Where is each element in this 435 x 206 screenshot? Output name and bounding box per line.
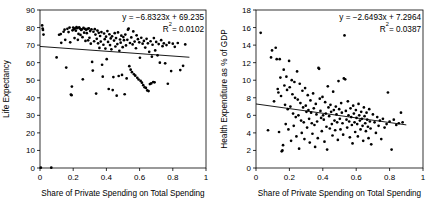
scatter-point: [131, 71, 134, 74]
scatter-point: [135, 47, 138, 50]
scatter-point: [340, 111, 343, 114]
scatter-point: [50, 166, 53, 169]
scatter-point: [42, 29, 45, 32]
scatter-points-group: [259, 31, 404, 152]
y-tick-label: 0: [31, 164, 36, 173]
scatter-point: [342, 133, 345, 136]
scatter-point: [84, 40, 87, 43]
scatter-point: [318, 97, 321, 100]
y-tick-label: 6: [247, 111, 252, 120]
scatter-point: [301, 89, 304, 92]
scatter-point: [290, 79, 293, 82]
scatter-point: [113, 32, 116, 35]
scatter-point: [119, 38, 122, 41]
scatter-point: [98, 47, 101, 50]
scatter-point: [141, 81, 144, 84]
scatter-point: [390, 148, 393, 151]
x-axis-label: Share of Private Spending on Total Spend…: [258, 189, 422, 198]
scatter-point: [309, 99, 312, 102]
scatter-point: [105, 35, 108, 38]
scatter-point: [387, 91, 390, 94]
scatter-point: [124, 33, 127, 36]
chart-panel-health-expenditure: 02468101214161800.20.40.60.81Share of Pr…: [218, 0, 435, 206]
x-tick-label: 0.6: [351, 173, 363, 182]
scatter-point: [383, 126, 386, 129]
scatter-point: [311, 132, 314, 135]
scatter-point: [81, 78, 84, 81]
scatter-point: [115, 37, 118, 40]
scatter-point: [341, 122, 344, 125]
scatter-point: [382, 117, 385, 120]
trendline: [40, 46, 189, 57]
scatter-point: [316, 137, 319, 140]
x-tick-label: 0.8: [167, 173, 179, 182]
scatter-point: [91, 69, 94, 72]
scatter-point: [121, 46, 124, 49]
scatter-point: [296, 98, 299, 101]
scatter-point: [332, 109, 335, 112]
scatter-point: [179, 69, 182, 72]
scatter-point: [153, 81, 156, 84]
scatter-point: [77, 38, 80, 41]
scatter-point: [308, 141, 311, 144]
scatter-point: [133, 40, 136, 43]
scatter-point: [73, 37, 76, 40]
scatter-point: [300, 132, 303, 135]
scatter-point: [159, 61, 162, 64]
scatter-point: [322, 118, 325, 121]
y-tick-label: 10: [242, 76, 251, 85]
scatter-point: [392, 118, 395, 121]
trendline: [256, 104, 406, 125]
scatter-plot-figure: 010203040506070809000.20.40.60.81Share o…: [0, 0, 435, 206]
x-tick-label: 0.4: [101, 173, 113, 182]
scatter-point: [359, 128, 362, 131]
scatter-point: [291, 93, 294, 96]
scatter-point: [357, 103, 360, 106]
scatter-point: [270, 56, 273, 59]
life-expectancy-scatter-svg: 010203040506070809000.20.40.60.81Share o…: [0, 0, 218, 206]
scatter-point: [304, 87, 307, 90]
scatter-point: [79, 34, 82, 37]
scatter-point: [282, 68, 285, 71]
scatter-point: [87, 39, 90, 42]
scatter-point: [70, 94, 73, 97]
scatter-point: [71, 85, 74, 88]
scatter-point: [101, 75, 104, 78]
scatter-point: [292, 125, 295, 128]
scatter-point: [64, 38, 67, 41]
y-tick-label: 70: [26, 41, 35, 50]
scatter-point: [96, 29, 99, 32]
scatter-point: [293, 81, 296, 84]
scatter-point: [290, 139, 293, 142]
scatter-point: [347, 100, 350, 103]
scatter-point: [55, 56, 58, 59]
r-squared-annotation: R2= 0.0387: [380, 21, 422, 34]
scatter-point: [147, 42, 150, 45]
scatter-point: [299, 102, 302, 105]
scatter-point: [288, 86, 291, 89]
scatter-point: [344, 78, 347, 81]
scatter-point: [109, 44, 112, 47]
scatter-point: [333, 119, 336, 122]
y-tick-label: 80: [26, 24, 35, 33]
scatter-point: [39, 166, 42, 169]
scatter-point: [127, 27, 130, 30]
scatter-point: [116, 43, 119, 46]
scatter-point: [153, 37, 156, 40]
scatter-point: [123, 93, 126, 96]
scatter-point: [297, 114, 300, 117]
scatter-point: [97, 31, 100, 34]
y-tick-label: 4: [247, 129, 252, 138]
x-tick-label: 0.6: [134, 173, 146, 182]
scatter-point: [320, 130, 323, 133]
scatter-point: [162, 42, 165, 45]
scatter-point: [88, 36, 91, 39]
scatter-point: [157, 43, 160, 46]
scatter-point: [59, 33, 62, 36]
scatter-point: [353, 112, 356, 115]
scatter-point: [168, 41, 171, 44]
scatter-point: [129, 42, 132, 45]
scatter-point: [336, 139, 339, 142]
scatter-point: [364, 122, 367, 125]
y-tick-label: 20: [26, 129, 35, 138]
